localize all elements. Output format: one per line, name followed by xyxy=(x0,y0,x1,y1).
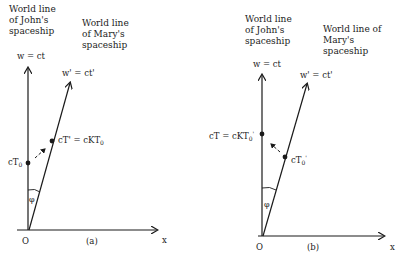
origin-label: O xyxy=(256,242,263,252)
mary-world-line-title: World line of Mary's spaceship xyxy=(82,18,129,51)
diagram-b: World line of John's spaceship World lin… xyxy=(200,0,398,256)
event-john-label: cT = cKT0' xyxy=(209,129,254,144)
event-mary-label: cT' = cKT0 xyxy=(58,135,104,148)
angle-phi-label: φ xyxy=(264,200,270,210)
mary-world-line-title: World line of Mary's spaceship xyxy=(323,24,381,57)
title-line: World line of xyxy=(323,24,381,35)
angle-arc xyxy=(262,187,276,190)
caption-b: (b) xyxy=(307,242,319,252)
x-axis-label: x xyxy=(162,235,167,245)
w-prime-axis-label: w' = ct' xyxy=(62,68,95,78)
title-line: spaceship xyxy=(9,26,56,37)
title-line: spaceship xyxy=(323,46,381,57)
angle-phi-label: φ xyxy=(29,195,35,205)
w-axis-label: w = ct xyxy=(17,51,45,61)
title-line: of Mary's xyxy=(82,29,129,40)
w-axis-label: w = ct xyxy=(253,59,281,69)
light-signal-arrow xyxy=(35,149,45,158)
angle-arc xyxy=(28,189,40,192)
title-line: Mary's xyxy=(323,35,381,46)
event-mary-dot xyxy=(283,155,288,160)
title-line: World line xyxy=(82,18,129,29)
event-john-label: cT0 xyxy=(8,157,22,170)
w-prime-axis-label: w' = ct' xyxy=(300,70,333,80)
diagram-a: World line of John's spaceship World lin… xyxy=(0,0,200,256)
event-mary-label: cT0' xyxy=(291,153,307,168)
light-signal-arrow xyxy=(271,144,280,152)
mary-world-line xyxy=(29,83,70,230)
origin-label: O xyxy=(22,236,29,246)
title-line: spaceship xyxy=(82,40,129,51)
title-line: of John's xyxy=(245,25,292,36)
title-line: World line xyxy=(245,14,292,25)
title-line: World line xyxy=(9,4,56,15)
x-axis-label: x xyxy=(390,242,395,252)
event-john-dot xyxy=(26,161,31,166)
event-john-dot xyxy=(260,132,265,137)
title-line: of John's xyxy=(9,15,56,26)
caption-a: (a) xyxy=(86,236,98,246)
title-line: spaceship xyxy=(245,36,292,47)
event-mary-dot xyxy=(50,139,55,144)
john-world-line-title: World line of John's spaceship xyxy=(9,4,56,37)
john-world-line-title: World line of John's spaceship xyxy=(245,14,292,47)
